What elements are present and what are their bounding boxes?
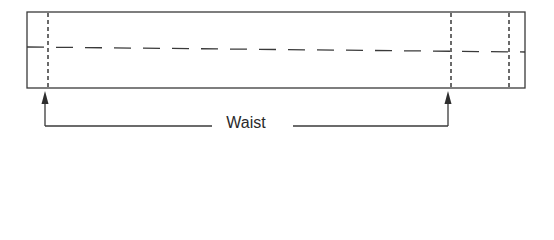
left-arrow xyxy=(42,91,213,126)
arrowhead-up-icon xyxy=(445,91,452,104)
arrowhead-up-icon xyxy=(42,91,49,104)
waist-label: Waist xyxy=(214,113,278,133)
right-arrow xyxy=(293,91,452,126)
